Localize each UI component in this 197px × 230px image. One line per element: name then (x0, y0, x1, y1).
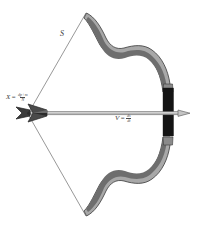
lower-limb (84, 137, 170, 216)
bowstring-lower-segment (29, 115, 87, 216)
nock-point (27, 112, 30, 115)
velocity-symbol: V (115, 115, 119, 122)
bow-illustration (0, 0, 197, 230)
velocity-equals: = (120, 115, 125, 122)
velocity-label: V = ds dt (115, 114, 132, 123)
draw-distance-label: X = dp+m N (6, 93, 29, 102)
draw-distance-fraction: dp+m N (17, 93, 29, 102)
draw-distance-equals: = (11, 94, 16, 101)
string-length-label: S (60, 30, 64, 38)
velocity-fraction: ds dt (126, 114, 132, 123)
arrow-shaft (30, 112, 182, 115)
velocity-denominator: dt (126, 118, 131, 123)
arrow-tip (178, 110, 190, 116)
bow-diagram-figure: S X = dp+m N V = ds dt (0, 0, 197, 230)
draw-distance-denominator: N (20, 97, 25, 102)
upper-limb (84, 13, 170, 92)
draw-distance-symbol: X (6, 94, 10, 101)
bowstring-upper-segment (29, 13, 87, 113)
